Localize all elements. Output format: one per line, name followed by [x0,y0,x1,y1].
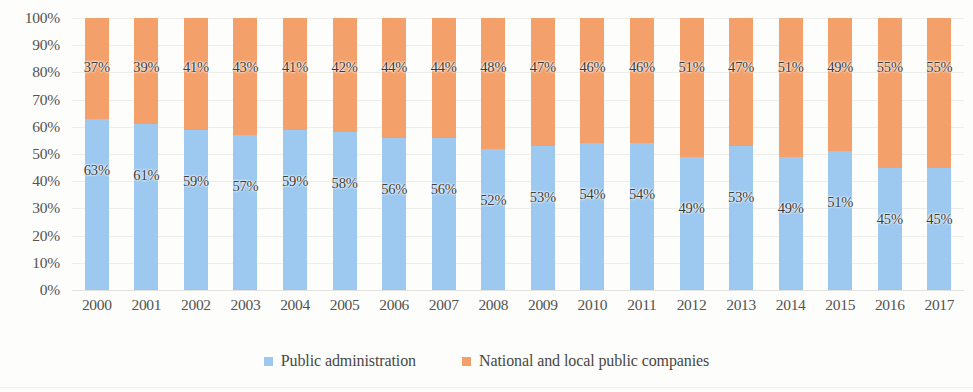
bar-value-label: 54% [629,186,655,203]
bar-segment-public-administration[interactable]: 54% [630,143,654,290]
bar-stack[interactable]: 44%56% [382,18,406,290]
x-axis-tick-label: 2001 [122,296,172,320]
bar-stack[interactable]: 37%63% [85,18,109,290]
page-edge-divider [0,387,973,388]
bar-value-label: 54% [579,186,605,203]
x-axis-tick-label: 2016 [865,296,915,320]
bar-segment-public-companies[interactable]: 46% [580,18,604,143]
bar-segment-public-companies[interactable]: 44% [382,18,406,138]
bar-value-label: 59% [282,173,308,190]
bar-stack[interactable]: 51%49% [680,18,704,290]
bar-segment-public-administration[interactable]: 59% [283,130,307,290]
bar-stack[interactable]: 46%54% [630,18,654,290]
bar-value-label: 41% [183,59,209,76]
bar-value-label: 37% [84,59,110,76]
bar-stack[interactable]: 46%54% [580,18,604,290]
bar-segment-public-companies[interactable]: 41% [283,18,307,130]
bar-stack[interactable]: 55%45% [927,18,951,290]
bar-segment-public-companies[interactable]: 47% [531,18,555,146]
bar-value-label: 46% [629,59,655,76]
bar-value-label: 47% [728,59,754,76]
bar-slot: 47%53% [518,18,568,290]
bar-segment-public-administration[interactable]: 52% [481,149,505,290]
legend-swatch-icon [462,357,471,366]
legend-swatch-icon [264,357,273,366]
bar-segment-public-companies[interactable]: 41% [184,18,208,130]
x-axis-tick-label: 2010 [568,296,618,320]
bar-stack[interactable]: 41%59% [283,18,307,290]
bar-segment-public-companies[interactable]: 39% [134,18,158,124]
bar-value-label: 55% [877,59,903,76]
stacked-bar-chart: 100%90%80%70%60%50%40%30%20%10%0% 37%63%… [0,0,973,392]
bar-segment-public-companies[interactable]: 47% [729,18,753,146]
legend-label: Public administration [281,352,416,370]
bar-segment-public-companies[interactable]: 43% [233,18,257,135]
bar-slot: 39%61% [122,18,172,290]
bar-segment-public-administration[interactable]: 49% [779,157,803,290]
bar-value-label: 49% [778,200,804,217]
bar-stack[interactable]: 43%57% [233,18,257,290]
bar-stack[interactable]: 47%53% [729,18,753,290]
bar-slot: 55%45% [915,18,965,290]
x-axis: 2000200120022003200420052006200720082009… [72,296,964,320]
bar-value-label: 56% [381,181,407,198]
y-axis-tick-label: 100% [25,9,60,27]
bar-stack[interactable]: 49%51% [828,18,852,290]
bar-segment-public-companies[interactable]: 55% [878,18,902,168]
bar-slot: 47%53% [716,18,766,290]
bar-value-label: 42% [332,59,358,76]
bar-stack[interactable]: 42%58% [333,18,357,290]
bar-stack[interactable]: 44%56% [432,18,456,290]
bar-segment-public-administration[interactable]: 53% [729,146,753,290]
y-axis-tick-label: 10% [32,254,60,272]
bar-value-label: 51% [679,59,705,76]
bar-stack[interactable]: 47%53% [531,18,555,290]
bar-slot: 42%58% [320,18,370,290]
x-axis-tick-label: 2004 [270,296,320,320]
y-axis-tick-label: 90% [32,36,60,54]
bar-segment-public-administration[interactable]: 58% [333,132,357,290]
bar-slot: 41%59% [171,18,221,290]
bar-stack[interactable]: 41%59% [184,18,208,290]
bar-segment-public-administration[interactable]: 63% [85,119,109,290]
bar-segment-public-companies[interactable]: 48% [481,18,505,149]
bar-segment-public-administration[interactable]: 61% [134,124,158,290]
bar-series-group: 37%63%39%61%41%59%43%57%41%59%42%58%44%5… [72,18,964,290]
bar-value-label: 49% [679,200,705,217]
bar-segment-public-administration[interactable]: 45% [878,168,902,290]
bar-value-label: 51% [827,194,853,211]
bar-value-label: 51% [778,59,804,76]
bar-stack[interactable]: 51%49% [779,18,803,290]
bar-stack[interactable]: 55%45% [878,18,902,290]
legend-item[interactable]: National and local public companies [462,352,709,370]
legend-label: National and local public companies [479,352,709,370]
bar-segment-public-companies[interactable]: 51% [779,18,803,157]
bar-segment-public-administration[interactable]: 54% [580,143,604,290]
bar-slot: 44%56% [419,18,469,290]
bar-segment-public-administration[interactable]: 51% [828,151,852,290]
bar-value-label: 48% [480,59,506,76]
bar-segment-public-companies[interactable]: 44% [432,18,456,138]
bar-value-label: 44% [431,59,457,76]
bar-value-label: 63% [84,162,110,179]
bar-segment-public-administration[interactable]: 57% [233,135,257,290]
bar-value-label: 57% [232,178,258,195]
bar-value-label: 53% [530,189,556,206]
bar-segment-public-administration[interactable]: 53% [531,146,555,290]
y-axis-tick-label: 80% [32,63,60,81]
bar-segment-public-companies[interactable]: 42% [333,18,357,132]
bar-segment-public-companies[interactable]: 46% [630,18,654,143]
bar-segment-public-administration[interactable]: 59% [184,130,208,290]
bar-segment-public-companies[interactable]: 55% [927,18,951,168]
y-axis-tick-label: 0% [40,281,60,299]
bar-segment-public-administration[interactable]: 45% [927,168,951,290]
bar-segment-public-administration[interactable]: 56% [382,138,406,290]
bar-segment-public-administration[interactable]: 56% [432,138,456,290]
bar-segment-public-companies[interactable]: 37% [85,18,109,119]
bar-stack[interactable]: 48%52% [481,18,505,290]
bar-stack[interactable]: 39%61% [134,18,158,290]
legend-item[interactable]: Public administration [264,352,416,370]
bar-segment-public-companies[interactable]: 51% [680,18,704,157]
bar-segment-public-companies[interactable]: 49% [828,18,852,151]
bar-segment-public-administration[interactable]: 49% [680,157,704,290]
